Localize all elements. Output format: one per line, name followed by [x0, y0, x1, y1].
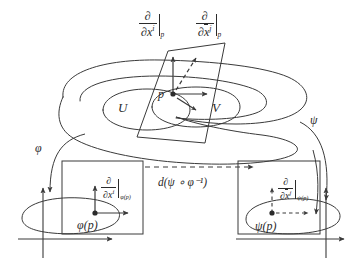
psi-map-arrow-inner	[313, 150, 318, 214]
point-p-dot	[170, 91, 175, 96]
right-basis-den-variable: x	[285, 190, 289, 201]
basis-2-eval-bar	[216, 14, 217, 36]
basis-1-eval-point: p	[161, 30, 165, 39]
basis-1-denominator: ∂xi	[139, 23, 157, 39]
basis-2-denominator: ∂xj	[196, 23, 214, 39]
tangent-plane	[137, 43, 225, 143]
basis-1-den-superscript: i	[152, 24, 154, 33]
right-chart-basis-label: ∂ ∂xj ψ(p)	[278, 177, 308, 201]
tangent-vector-diagonal-dashed	[176, 58, 196, 90]
right-basis-denominator: ∂xj	[278, 188, 293, 202]
right-chart-point-dot	[269, 210, 274, 215]
left-chart-point-label: φ(p)	[77, 219, 98, 231]
tangent-basis-2-label: ∂ ∂xj p	[196, 10, 221, 39]
overbar-2-icon	[204, 24, 208, 25]
overbar-right-icon	[285, 189, 288, 190]
tangent-basis-1-label: ∂ ∂xi p	[139, 10, 164, 39]
region-v-label: V	[212, 100, 220, 116]
tangent-vectors-at-p	[170, 57, 207, 110]
right-basis-eval-point: ψ(p)	[297, 194, 308, 201]
left-basis-den-superscript: i	[112, 188, 114, 195]
tangent-vector-lower-right-solid	[177, 98, 196, 110]
differential-map-label: d(ψ ∘ φ⁻¹)	[158, 177, 207, 189]
left-chart-domain-ellipse	[22, 198, 119, 234]
left-basis-denominator: ∂xi	[101, 187, 116, 201]
left-basis-eval-point: φ(p)	[120, 193, 131, 200]
phi-map-label: φ	[35, 142, 42, 154]
basis-1-numerator: ∂	[143, 10, 153, 23]
left-chart-basis-label: ∂ ∂xi φ(p)	[101, 176, 131, 200]
phi-map-arrow	[50, 134, 85, 192]
right-basis-numerator: ∂	[281, 177, 290, 188]
point-p-label: p	[158, 87, 164, 102]
left-basis-numerator: ∂	[104, 176, 113, 187]
right-basis-overbar-variable: x	[285, 190, 289, 201]
right-basis-den-superscript: j	[289, 189, 291, 196]
right-chart-point-label: ψ(p)	[255, 220, 276, 232]
manifold-outline	[59, 60, 307, 164]
tangent-space-diagram: ∂ ∂xi p ∂ ∂xj p U V p φ ψ d(ψ ∘ φ⁻¹) ∂ ∂…	[0, 0, 360, 266]
left-basis-eval-bar	[118, 179, 119, 198]
basis-2-numerator: ∂	[200, 10, 210, 23]
basis-2-den-variable: x	[204, 25, 209, 39]
manifold-outline-group	[59, 60, 307, 164]
basis-2-eval-point: p	[218, 30, 222, 39]
basis-2-overbar-variable: x	[204, 26, 209, 39]
region-u-label: U	[118, 100, 127, 116]
basis-2-den-superscript: j	[209, 24, 211, 33]
diagram-canvas	[0, 0, 360, 266]
left-chart-point-dot	[92, 210, 97, 215]
psi-map-label: ψ	[310, 114, 317, 126]
basis-1-eval-bar	[159, 14, 160, 36]
right-basis-eval-bar	[295, 180, 296, 199]
